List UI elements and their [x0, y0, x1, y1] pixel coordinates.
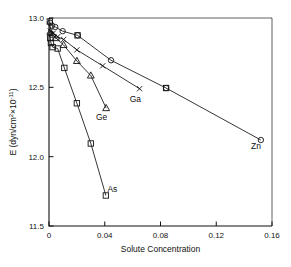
- series-line-ge: [50, 32, 106, 108]
- y-tick-label: 11.5: [29, 222, 45, 231]
- series-label-zn: Zn: [251, 141, 261, 151]
- x-tick-label: 0.16: [264, 231, 280, 240]
- axis-frame: [49, 18, 272, 226]
- data-point-ga: [137, 86, 142, 91]
- y-tick-label: 12.5: [28, 83, 44, 92]
- y-tick-label: 12.0: [28, 153, 44, 162]
- data-point-ga: [100, 63, 105, 68]
- series-line-as: [50, 21, 106, 195]
- series-label-ga: Ga: [130, 94, 142, 104]
- x-tick-label: 0: [47, 231, 52, 240]
- data-point-ga: [74, 47, 79, 52]
- chart-canvas: 00.040.080.120.1611.512.012.513.0Solute …: [0, 0, 291, 267]
- x-tick-label: 0.08: [153, 231, 169, 240]
- series-label-ge: Ge: [96, 112, 108, 122]
- x-tick-label: 0.12: [208, 231, 224, 240]
- y-axis-label: E (dyn/cm2×10-11): [8, 88, 18, 155]
- axis-frame-top-right: [49, 18, 272, 226]
- x-axis-label: Solute Concentration: [121, 244, 201, 254]
- x-tick-label: 0.04: [97, 231, 113, 240]
- series-line-zn: [50, 23, 261, 140]
- figure-panel: 00.040.080.120.1611.512.012.513.0Solute …: [0, 0, 291, 267]
- y-tick-label: 13.0: [28, 14, 44, 23]
- series-label-as: As: [107, 184, 117, 194]
